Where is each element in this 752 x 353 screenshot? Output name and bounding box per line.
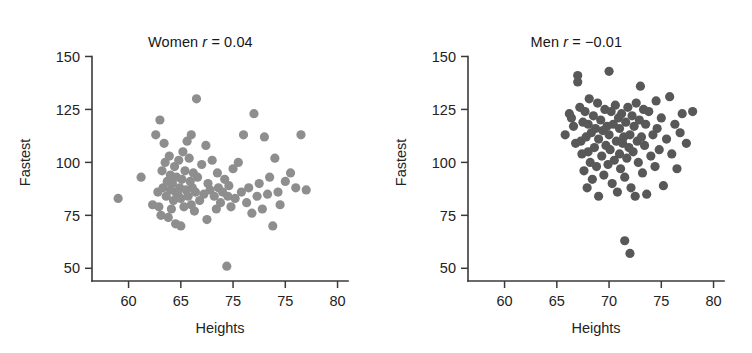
women-y-tick-label: 75 — [64, 208, 80, 224]
figure-scatter-pair: Women r = 0.04 50751001251506065757580He… — [0, 0, 752, 353]
data-point — [569, 122, 578, 131]
men-y-tick-label: 75 — [440, 208, 456, 224]
data-point — [583, 183, 592, 192]
women-x-tick-label: 65 — [173, 293, 189, 309]
data-point — [185, 154, 194, 163]
data-point — [634, 158, 643, 167]
women-x-tick-label: 75 — [225, 293, 241, 309]
data-point — [636, 82, 645, 91]
data-point — [688, 107, 697, 116]
data-point — [625, 249, 634, 258]
data-point — [154, 202, 163, 211]
data-point — [646, 151, 655, 160]
data-point — [180, 166, 189, 175]
women-y-tick-label: 100 — [56, 155, 80, 171]
men-x-tick-label: 65 — [549, 293, 565, 309]
data-point — [302, 185, 311, 194]
data-point — [653, 124, 662, 133]
data-point — [620, 173, 629, 182]
data-point — [608, 179, 617, 188]
data-point — [585, 94, 594, 103]
data-point — [244, 183, 253, 192]
data-point — [268, 221, 277, 230]
men-y-tick-label: 50 — [440, 260, 456, 276]
men-x-tick-label: 75 — [653, 293, 669, 309]
panel-men-plot: 50751001251506065707580HeightsFastest — [376, 0, 752, 353]
panel-men: Men r = −0.01 50751001251506065707580Hei… — [376, 0, 752, 353]
data-point — [208, 156, 217, 165]
data-point — [201, 141, 210, 150]
data-point — [650, 162, 659, 171]
data-point — [642, 190, 651, 199]
data-point — [165, 151, 174, 160]
data-point — [222, 262, 231, 271]
data-point — [155, 115, 164, 124]
data-point — [588, 175, 597, 184]
data-point — [226, 202, 235, 211]
data-point — [667, 149, 676, 158]
data-point — [273, 187, 282, 196]
data-point — [641, 120, 650, 129]
women-x-tick-label: 80 — [329, 293, 345, 309]
women-y-axis-title: Fastest — [17, 139, 33, 187]
data-point — [137, 173, 146, 182]
data-point — [670, 120, 679, 129]
data-point — [651, 96, 660, 105]
men-y-axis-title: Fastest — [393, 139, 409, 187]
data-point — [249, 109, 258, 118]
men-x-tick-label: 80 — [705, 293, 721, 309]
data-point — [174, 156, 183, 165]
data-point — [114, 194, 123, 203]
women-y-tick-label: 150 — [56, 49, 80, 65]
data-point — [252, 192, 261, 201]
data-point — [606, 145, 615, 154]
men-x-axis-title: Heights — [571, 320, 620, 336]
data-point — [631, 192, 640, 201]
data-point — [190, 207, 199, 216]
data-point — [573, 77, 582, 86]
data-point — [628, 147, 637, 156]
data-point — [599, 170, 608, 179]
data-point — [623, 103, 632, 112]
data-point — [197, 160, 206, 169]
data-point — [616, 164, 625, 173]
data-point — [247, 209, 256, 218]
data-point — [263, 190, 272, 199]
data-point — [567, 113, 576, 122]
data-point — [291, 183, 300, 192]
data-point — [637, 132, 646, 141]
men-x-tick-label: 70 — [601, 293, 617, 309]
data-point — [213, 168, 222, 177]
panel-women-plot: 50751001251506065757580HeightsFastest — [0, 0, 376, 353]
data-point — [258, 204, 267, 213]
data-point — [239, 130, 248, 139]
data-point — [275, 200, 284, 209]
women-x-axis-title: Heights — [195, 320, 244, 336]
data-point — [580, 107, 589, 116]
data-point — [281, 177, 290, 186]
data-point — [255, 179, 264, 188]
data-point — [561, 130, 570, 139]
data-point — [659, 181, 668, 190]
men-y-tick-label: 100 — [432, 155, 456, 171]
data-point — [613, 187, 622, 196]
data-point — [597, 151, 606, 160]
women-y-tick-label: 50 — [64, 260, 80, 276]
data-point — [672, 164, 681, 173]
data-point — [234, 158, 243, 167]
data-point — [242, 198, 251, 207]
men-y-tick-label: 150 — [432, 49, 456, 65]
data-point — [592, 162, 601, 171]
data-point — [657, 113, 666, 122]
data-point — [594, 134, 603, 143]
data-point — [590, 143, 599, 152]
data-point — [176, 221, 185, 230]
data-point — [187, 130, 196, 139]
women-x-tick-label: 75 — [277, 293, 293, 309]
data-point — [620, 236, 629, 245]
data-point — [662, 134, 671, 143]
men-data-points — [561, 67, 698, 258]
data-point — [193, 173, 202, 182]
women-x-tick-label: 60 — [121, 293, 137, 309]
data-point — [192, 94, 201, 103]
